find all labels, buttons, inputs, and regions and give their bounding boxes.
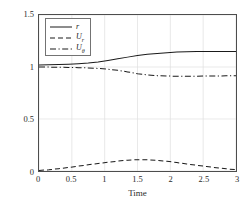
y-tick-label: 1.5 [8,9,34,19]
x-tick-label: 2.5 [199,174,210,184]
x-tick-label: 0 [36,174,40,184]
x-tick-label: 3 [235,174,239,184]
legend-label: Uθ [76,43,85,54]
chart-figure: 00.511.522.53 00.511.5 Time States rUrUθ [0,0,247,206]
y-tick-label: 0.5 [8,114,34,124]
x-axis-label: Time [38,188,237,198]
legend-entry[interactable]: Uθ [49,43,87,54]
chart-legend: rUrUθ [45,18,91,56]
y-tick-label: 1 [8,62,34,72]
legend-label: Ur [76,32,84,43]
legend-line-swatch [49,45,73,53]
y-tick-label: 0 [8,167,34,177]
x-tick-label: 0.5 [66,174,77,184]
series-line-U_theta [39,67,236,76]
series-line-U_r [39,160,236,171]
legend-line-swatch [49,23,73,31]
legend-label: r [76,22,79,31]
legend-line-swatch [49,34,73,42]
x-tick-label: 1.5 [132,174,143,184]
legend-entry[interactable]: Ur [49,32,87,43]
x-tick-label: 2 [169,174,173,184]
x-tick-label: 1 [102,174,106,184]
legend-entry[interactable]: r [49,21,87,32]
